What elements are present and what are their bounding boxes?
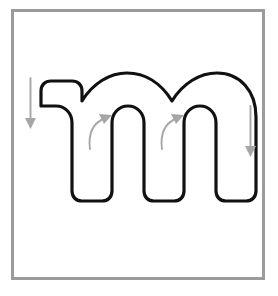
down-arrow-left-stem-head (25, 118, 36, 129)
letter-tracing-worksheet: Lowercase letter m stroke-order tracing … (0, 0, 278, 296)
down-arrow-left-stem (25, 78, 36, 129)
letter-m-glyph-outline (41, 73, 256, 201)
stroke-order-diagram (0, 0, 278, 296)
